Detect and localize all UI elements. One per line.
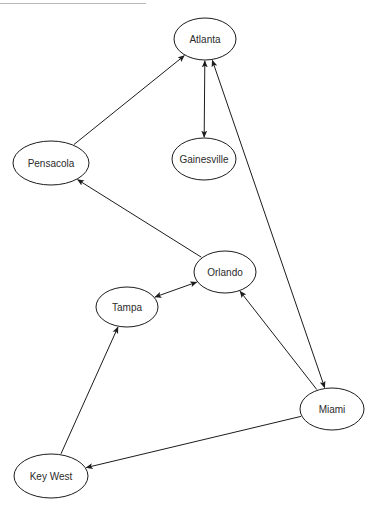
node-ellipse-pensacola[interactable] xyxy=(13,141,89,185)
node-atlanta[interactable]: Atlanta xyxy=(174,18,236,60)
node-ellipse-atlanta[interactable] xyxy=(174,18,236,60)
diagram-canvas: Pensacola to AtlantaAtlanta and Gainesvi… xyxy=(0,0,371,513)
node-ellipse-tampa[interactable] xyxy=(96,287,158,327)
graph-svg: Pensacola to AtlantaAtlanta and Gainesvi… xyxy=(0,0,371,513)
node-tampa[interactable]: Tampa xyxy=(96,287,158,327)
edge-atlanta-gainesville: Atlanta and Gainesville xyxy=(204,61,205,137)
edge-pensacola-atlanta: Pensacola to Atlanta xyxy=(74,56,184,145)
edge-tampa-orlando: Tampa and Orlando xyxy=(155,282,197,297)
node-ellipse-keywest[interactable] xyxy=(14,454,88,498)
node-keywest[interactable]: Key West xyxy=(14,454,88,498)
node-pensacola[interactable]: Pensacola xyxy=(13,141,89,185)
nodes-layer: AtlantaPensacolaGainesvilleOrlandoTampaM… xyxy=(13,18,364,498)
node-orlando[interactable]: Orlando xyxy=(194,251,256,293)
node-gainesville[interactable]: Gainesville xyxy=(172,138,236,180)
edge-miami-keywest: Miami to Key West xyxy=(86,416,301,467)
node-ellipse-orlando[interactable] xyxy=(194,251,256,293)
node-ellipse-gainesville[interactable] xyxy=(172,138,236,180)
node-miami[interactable]: Miami xyxy=(300,388,364,430)
edge-orlando-pensacola: Orlando to Pensacola xyxy=(78,180,202,258)
edge-atlanta-miami: Atlanta and Miami xyxy=(212,60,324,387)
node-ellipse-miami[interactable] xyxy=(300,388,364,430)
edges-layer: Pensacola to AtlantaAtlanta and Gainesvi… xyxy=(61,56,325,468)
edge-miami-orlando: Miami to Orlando xyxy=(240,291,317,389)
edge-keywest-tampa: Key West to Tampa xyxy=(61,327,118,454)
